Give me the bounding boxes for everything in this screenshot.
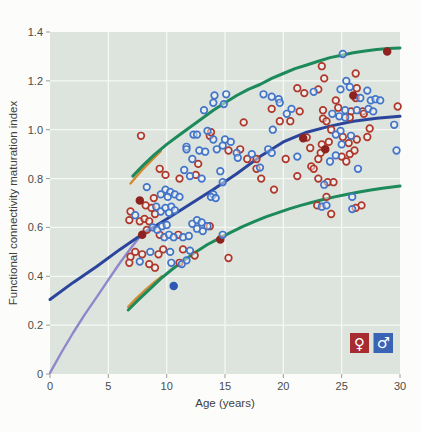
scatter-plot: 05101520253000.20.40.60.81.01.21.4 Age (… — [0, 0, 422, 432]
x-tick-label: 20 — [277, 380, 289, 392]
scatter-point-female — [326, 139, 333, 146]
scatter-point-female-filled — [350, 92, 357, 99]
scatter-point-female — [352, 70, 359, 77]
x-axis-title: Age (years) — [195, 397, 255, 409]
scatter-point-male — [249, 151, 256, 158]
scatter-point-female — [180, 246, 187, 253]
scatter-point-female — [126, 217, 133, 224]
scatter-point-male — [189, 156, 196, 163]
scatter-point-female — [152, 264, 159, 271]
scatter-point-male — [172, 207, 179, 214]
scatter-point-male — [333, 152, 340, 159]
female-symbol-icon: ♀ — [354, 335, 365, 353]
scatter-point-female — [330, 179, 337, 186]
scatter-point-female — [323, 118, 330, 125]
scatter-point-female — [282, 156, 289, 163]
scatter-point-female — [319, 63, 326, 70]
y-tick-label: 0.4 — [28, 270, 43, 282]
scatter-point-male — [342, 114, 349, 121]
scatter-point-female — [343, 158, 350, 165]
scatter-point-male — [349, 206, 356, 213]
scatter-point-male — [181, 167, 188, 174]
scatter-point-male — [210, 100, 217, 107]
scatter-point-female-filled — [384, 48, 391, 55]
scatter-point-female — [333, 97, 340, 104]
scatter-point-male — [329, 111, 336, 118]
scatter-point-male — [219, 232, 226, 239]
scatter-point-female — [320, 107, 327, 114]
scatter-point-female — [321, 75, 328, 82]
male-symbol-icon: ♂ — [377, 334, 390, 352]
y-tick-label: 1.2 — [28, 75, 43, 87]
scatter-point-female — [364, 134, 371, 141]
scatter-point-female — [126, 260, 133, 267]
scatter-point-male — [170, 234, 177, 241]
scatter-point-female-filled — [300, 135, 307, 142]
scatter-point-female — [328, 211, 335, 218]
scatter-point-male — [235, 155, 242, 162]
scatter-point-male — [179, 261, 186, 268]
scatter-point-male — [342, 107, 349, 114]
scatter-point-male — [186, 233, 193, 240]
scatter-point-male — [176, 194, 183, 201]
scatter-point-female — [258, 175, 265, 182]
scatter-point-male — [187, 173, 194, 180]
scatter-point-female — [296, 108, 303, 115]
scatter-point-male — [349, 194, 356, 201]
scatter-point-male — [167, 249, 174, 256]
scatter-point-male — [204, 223, 211, 230]
scatter-point-male — [393, 147, 400, 154]
scatter-point-male — [228, 139, 235, 146]
scatter-point-male — [257, 164, 264, 171]
scatter-point-male — [391, 122, 398, 129]
scatter-point-female — [151, 195, 158, 202]
scatter-point-female — [294, 85, 301, 92]
scatter-point-female — [225, 147, 232, 154]
scatter-point-male — [323, 202, 330, 209]
scatter-point-male — [214, 146, 221, 153]
scatter-point-female — [277, 118, 284, 125]
scatter-point-male — [348, 133, 355, 140]
scatter-point-female — [268, 106, 275, 113]
scatter-point-male — [132, 212, 139, 219]
scatter-point-male — [198, 175, 205, 182]
scatter-point-male — [194, 131, 201, 138]
scatter-point-female — [138, 133, 145, 140]
scatter-point-female — [323, 194, 330, 201]
scatter-point-male — [338, 141, 345, 148]
scatter-point-female — [307, 145, 314, 152]
figure-container: 05101520253000.20.40.60.81.01.21.4 Age (… — [0, 0, 422, 432]
x-tick-label: 0 — [47, 380, 53, 392]
scatter-point-female — [156, 166, 163, 173]
scatter-point-male — [223, 91, 230, 98]
scatter-point-male — [357, 95, 364, 102]
y-axis-title: Functional connectivity maturation index — [7, 100, 19, 305]
scatter-point-male — [202, 148, 209, 155]
scatter-point-male — [270, 126, 277, 133]
scatter-point-female — [294, 173, 301, 180]
scatter-point-male — [347, 84, 354, 91]
scatter-point-male — [377, 97, 384, 104]
scatter-point-male — [201, 107, 208, 114]
x-tick-label: 5 — [105, 380, 111, 392]
scatter-point-female — [287, 118, 294, 125]
scatter-point-female — [240, 119, 247, 126]
scatter-point-male — [211, 92, 218, 99]
scatter-point-male — [268, 150, 275, 157]
scatter-point-male — [327, 158, 334, 165]
scatter-point-male — [212, 195, 219, 202]
scatter-point-male-filled — [170, 283, 177, 290]
scatter-point-male — [294, 153, 301, 160]
scatter-point-male — [321, 181, 328, 188]
y-tick-label: 0 — [37, 368, 43, 380]
scatter-point-male — [337, 86, 344, 93]
scatter-point-male — [163, 222, 170, 229]
scatter-point-female-filled — [322, 146, 329, 153]
scatter-point-male — [333, 131, 340, 138]
scatter-point-female — [162, 172, 169, 179]
y-tick-label: 0.6 — [28, 221, 43, 233]
scatter-point-female — [225, 255, 232, 262]
scatter-point-male — [268, 93, 275, 100]
scatter-point-male — [219, 179, 226, 186]
y-tick-label: 0.2 — [28, 319, 43, 331]
